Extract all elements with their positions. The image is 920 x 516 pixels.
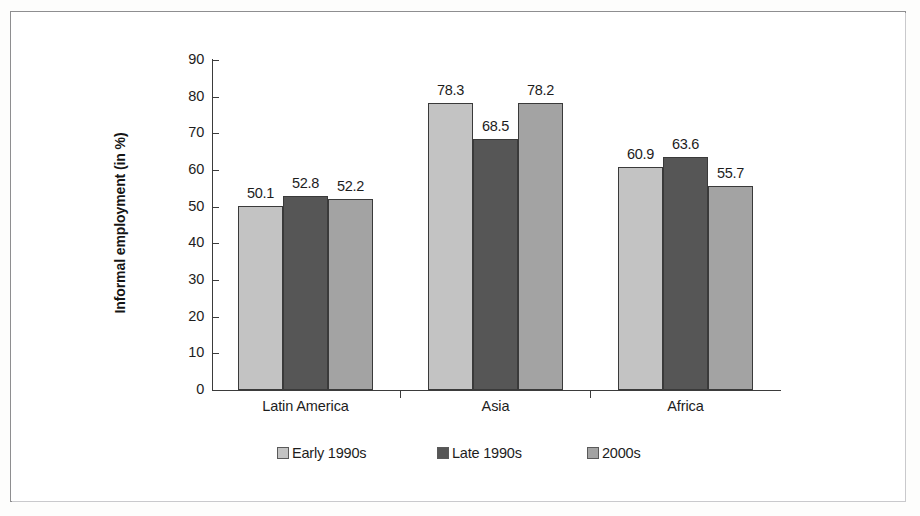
legend-swatch-icon bbox=[277, 447, 289, 459]
bar-africa-early-1990s bbox=[618, 167, 663, 390]
y-axis-tick-label: 40 bbox=[144, 234, 204, 250]
legend-label: 2000s bbox=[602, 445, 641, 461]
legend-swatch-icon bbox=[587, 447, 599, 459]
y-axis-tick bbox=[213, 207, 219, 208]
grouped-bar-chart: Informal employment (in %) 0102030405060… bbox=[0, 0, 920, 516]
x-axis-label-africa: Africa bbox=[586, 398, 786, 414]
bar-latin-america-late-1990s bbox=[283, 196, 328, 390]
bar-value-label: 78.3 bbox=[421, 82, 481, 98]
bar-africa-late-1990s bbox=[663, 157, 708, 390]
x-axis-line bbox=[212, 390, 781, 391]
legend-item-late-1990s[interactable]: Late 1990s bbox=[437, 443, 522, 463]
legend-label: Early 1990s bbox=[292, 445, 366, 461]
y-axis-tick-label: 10 bbox=[144, 344, 204, 360]
bar-latin-america-early-1990s bbox=[238, 206, 283, 390]
legend-item-2000s[interactable]: 2000s bbox=[587, 443, 641, 463]
y-axis-tick-label: 30 bbox=[144, 271, 204, 287]
y-axis-tick-label: 60 bbox=[144, 161, 204, 177]
y-axis-tick-label: 50 bbox=[144, 198, 204, 214]
y-axis-tick bbox=[213, 353, 219, 354]
y-axis-line bbox=[212, 59, 213, 391]
y-axis-title: Informal employment (in %) bbox=[112, 93, 128, 353]
x-axis-label-asia: Asia bbox=[396, 398, 596, 414]
y-axis-tick bbox=[213, 170, 219, 171]
bar-africa-2000s bbox=[708, 186, 753, 390]
bar-value-label: 68.5 bbox=[466, 118, 526, 134]
y-axis-tick bbox=[213, 97, 219, 98]
bar-asia-2000s bbox=[518, 103, 563, 390]
bar-value-label: 78.2 bbox=[511, 82, 571, 98]
y-axis-tick bbox=[213, 280, 219, 281]
y-axis-tick-label: 90 bbox=[144, 51, 204, 67]
bar-value-label: 55.7 bbox=[701, 165, 761, 181]
y-axis-tick-label: 20 bbox=[144, 308, 204, 324]
y-axis-tick-label: 0 bbox=[144, 381, 204, 397]
y-axis-tick-label: 80 bbox=[144, 88, 204, 104]
legend-label: Late 1990s bbox=[452, 445, 522, 461]
bar-value-label: 63.6 bbox=[656, 136, 716, 152]
y-axis-tick bbox=[213, 133, 219, 134]
y-axis-tick-label: 70 bbox=[144, 124, 204, 140]
x-axis-label-latin-america: Latin America bbox=[206, 398, 406, 414]
chart-screenshot: Informal employment (in %) 0102030405060… bbox=[0, 0, 920, 516]
y-axis-tick bbox=[213, 60, 219, 61]
y-axis-tick bbox=[213, 390, 219, 391]
bar-latin-america-2000s bbox=[328, 199, 373, 390]
x-axis-tick bbox=[400, 391, 401, 398]
legend-item-early-1990s[interactable]: Early 1990s bbox=[277, 443, 366, 463]
legend-swatch-icon bbox=[437, 447, 449, 459]
y-axis-tick bbox=[213, 317, 219, 318]
y-axis-tick bbox=[213, 243, 219, 244]
bar-asia-late-1990s bbox=[473, 139, 518, 390]
bar-asia-early-1990s bbox=[428, 103, 473, 390]
bar-value-label: 52.2 bbox=[321, 178, 381, 194]
x-axis-tick bbox=[590, 391, 591, 398]
